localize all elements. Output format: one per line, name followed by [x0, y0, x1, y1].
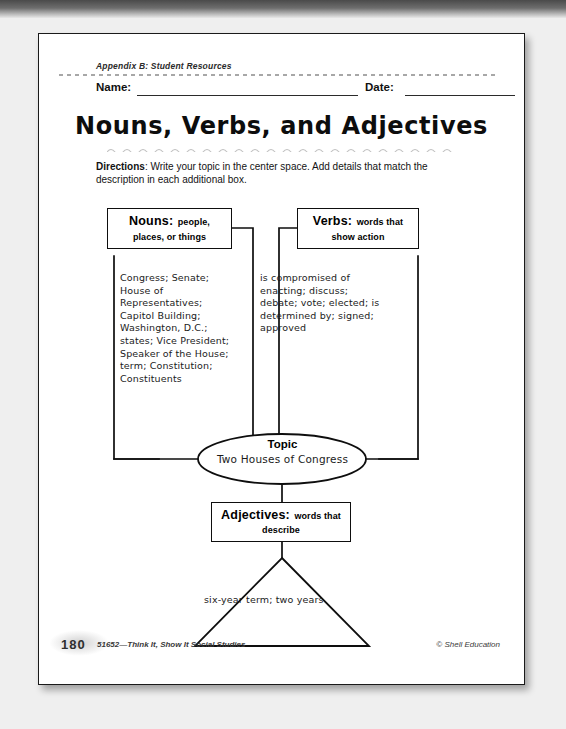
scan-top-band [0, 0, 566, 18]
footer-product-line: 51652—Think It, Show It Social Studies [97, 640, 245, 649]
page-number: 180 [61, 637, 86, 652]
nouns-answer-text[interactable]: Congress; Senate; House of Representativ… [120, 272, 238, 385]
verbs-label-main: Verbs: [313, 214, 352, 228]
nouns-label-main: Nouns: [129, 214, 173, 228]
nouns-label-box[interactable]: Nouns: people, places, or things [107, 208, 232, 249]
adjectives-label-main: Adjectives: [221, 508, 290, 522]
topic-label: Topic [39, 438, 526, 450]
verbs-answer-text[interactable]: is compromised of enacting; discuss; deb… [260, 272, 385, 335]
verbs-label-box[interactable]: Verbs: words that show action [297, 208, 419, 249]
adjectives-answer-text[interactable]: six-year term; two years [204, 594, 324, 607]
topic-answer-text[interactable]: Two Houses of Congress [39, 453, 526, 465]
adjectives-label-box[interactable]: Adjectives: words that describe [211, 502, 351, 542]
footer-copyright: © Shell Education [436, 640, 500, 649]
graphic-organizer-lines [39, 34, 526, 686]
worksheet-page: Appendix B: Student Resources Name: Date… [38, 33, 525, 685]
